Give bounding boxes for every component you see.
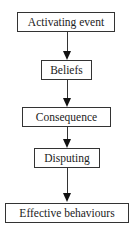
node-disputing: Disputing bbox=[34, 148, 100, 168]
node-label: Effective behaviours bbox=[19, 207, 114, 219]
arrow-head-icon bbox=[63, 139, 71, 148]
node-label: Activating event bbox=[28, 16, 104, 28]
node-label: Disputing bbox=[44, 152, 89, 164]
node-consequence: Consequence bbox=[22, 107, 111, 127]
arrow-line bbox=[67, 168, 68, 194]
arrow-head-icon bbox=[63, 98, 71, 107]
arrow-head-icon bbox=[63, 193, 71, 202]
node-beliefs: Beliefs bbox=[41, 60, 92, 80]
arrow-line bbox=[67, 80, 68, 99]
node-label: Beliefs bbox=[50, 64, 83, 76]
node-label: Consequence bbox=[36, 111, 97, 123]
arrow-head-icon bbox=[63, 51, 71, 60]
node-effective-behaviours: Effective behaviours bbox=[5, 203, 129, 223]
node-activating-event: Activating event bbox=[17, 12, 115, 32]
arrow-line bbox=[67, 32, 68, 52]
